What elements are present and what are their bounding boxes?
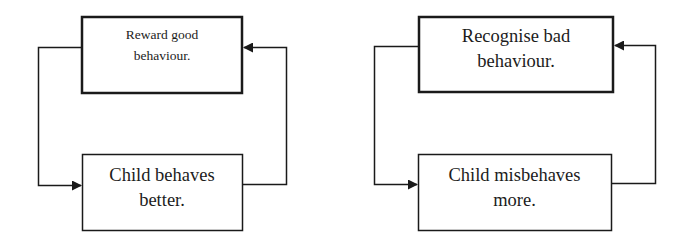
left-connector-arrow: [39, 48, 82, 186]
left-connector-arrow: [375, 47, 419, 185]
label-line-2: behaviour.: [82, 45, 242, 66]
label-line-1: Reward good: [82, 24, 242, 45]
child-behaves-better-label: Child behaves better.: [82, 163, 242, 213]
label-line-2: behaviour.: [419, 49, 613, 74]
label-line-1: Recognise bad: [419, 24, 613, 49]
label-line-1: Child behaves: [82, 163, 242, 188]
child-misbehaves-more-label: Child misbehaves more.: [418, 163, 611, 213]
recognise-bad-behaviour-label: Recognise bad behaviour.: [419, 24, 613, 74]
right-connector-arrow: [612, 46, 656, 184]
label-line-2: more.: [418, 188, 611, 213]
reward-good-behaviour-label: Reward good behaviour.: [82, 24, 242, 66]
label-line-2: better.: [82, 188, 242, 213]
right-connector-arrow: [243, 48, 287, 185]
label-line-1: Child misbehaves: [418, 163, 611, 188]
